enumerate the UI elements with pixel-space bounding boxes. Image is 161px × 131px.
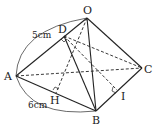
- label-b: B: [92, 114, 100, 127]
- label-o: O: [83, 4, 92, 17]
- edge-bc: [96, 68, 142, 111]
- segment-db: [64, 36, 96, 111]
- label-a: A: [3, 70, 13, 83]
- dimension-label-oa: 5cm: [32, 30, 52, 40]
- pyramid-diagram: O A B C D H I 5cm 6cm: [0, 0, 161, 131]
- label-h: H: [50, 94, 60, 107]
- right-angle-mark-i: [112, 87, 116, 93]
- segment-di-hidden: [64, 36, 117, 90]
- label-i: I: [121, 90, 125, 103]
- dimension-label-ab: 6cm: [28, 100, 48, 110]
- edge-ob: [87, 18, 96, 111]
- label-c: C: [144, 63, 152, 76]
- edge-oc: [87, 18, 142, 68]
- label-d: D: [58, 23, 67, 36]
